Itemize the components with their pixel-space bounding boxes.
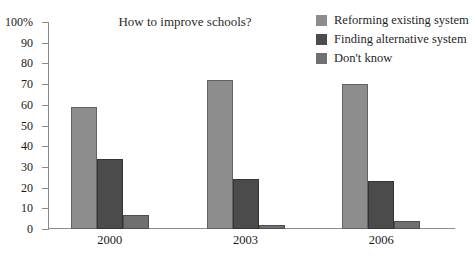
bar[interactable] (342, 84, 368, 229)
y-axis-tick-label: 40 (21, 140, 33, 152)
y-axis-tick-label: 10 (21, 202, 33, 214)
bar[interactable] (71, 107, 97, 229)
bar-group: 2003 (207, 22, 285, 229)
bar-group: 2006 (342, 22, 420, 229)
bar-groups: 200020032006 (48, 22, 455, 229)
bar-chart: How to improve schools? Reforming existi… (0, 0, 475, 265)
y-axis-tick-label: 20 (21, 182, 33, 194)
bar[interactable] (207, 80, 233, 229)
x-axis-category-label: 2000 (71, 233, 149, 248)
x-axis-category-label: 2003 (207, 233, 285, 248)
y-axis-tick-label: 30 (21, 161, 33, 173)
y-axis-tick-label: 50 (21, 120, 33, 132)
y-axis-tick-label: 90 (21, 37, 33, 49)
plot-area: 100%9080706050403020100 200020032006 (48, 22, 455, 229)
x-axis-category-label: 2006 (342, 233, 420, 248)
bar[interactable] (259, 225, 285, 229)
bar[interactable] (233, 179, 259, 229)
y-axis-tick-label: 70 (21, 78, 33, 90)
y-axis-tick-label: 80 (21, 57, 33, 69)
bar[interactable] (394, 221, 420, 229)
bar[interactable] (368, 181, 394, 229)
y-axis-tick-label: 60 (21, 99, 33, 111)
bar[interactable] (123, 215, 149, 229)
y-axis-tick: 0 (42, 229, 49, 230)
y-axis-tick-label: 0 (27, 223, 33, 235)
bar-group: 2000 (71, 22, 149, 229)
bar[interactable] (97, 159, 123, 229)
y-axis-tick-label: 100% (5, 16, 33, 28)
